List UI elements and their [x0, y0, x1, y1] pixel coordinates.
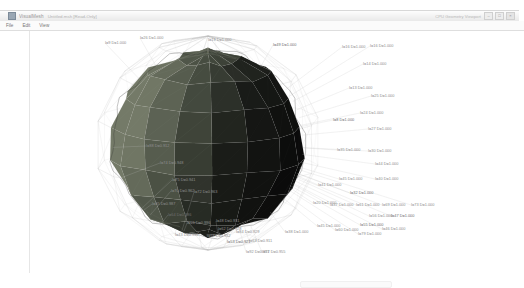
vertex-label: I=53 D=0.921 — [227, 240, 250, 244]
vertex-label: I=63 D=0.911 — [249, 239, 272, 243]
vertex-label: I=41 D=1.000 — [318, 183, 341, 187]
vertex-label: I=44 D=1.000 — [375, 162, 398, 166]
vertex-label: I=70 D=0.962 — [171, 189, 194, 193]
vertex-label: I=9 D=1.000 — [105, 41, 126, 45]
menu-bar: File Edit View — [0, 21, 524, 31]
window-controls: – □ × — [484, 12, 515, 20]
vertex-label: I=24 D=1.000 — [360, 111, 383, 115]
close-button[interactable]: × — [506, 12, 515, 20]
vertex-label: I=88 D=0.912 — [146, 144, 169, 148]
app-icon — [8, 12, 16, 20]
titlebar-status: CPU Geometry Viewport — [435, 14, 481, 19]
vertex-label: I=47 D=1.000 — [391, 214, 414, 218]
minimize-button[interactable]: – — [484, 12, 493, 20]
vertex-label: I=75 D=0.941 — [172, 178, 195, 182]
vertex-label: I=25 D=1.000 — [371, 94, 394, 98]
vertex-label: I=13 D=1.000 — [349, 86, 372, 90]
vertex-label: I=46 D=1.000 — [382, 227, 405, 231]
vertex-label: I=61 D=1.000 — [356, 203, 379, 207]
window-title: VisualMesh — [19, 14, 44, 19]
window-subtitle: Untitled.msh [Read-Only] — [48, 14, 97, 19]
vertex-label: I=73 D=1.000 — [411, 203, 434, 207]
vertex-label: I=55 D=1.000 — [360, 223, 383, 227]
horizontal-scrollbar[interactable] — [300, 281, 392, 288]
vertex-label: I=72 D=0.963 — [194, 190, 217, 194]
vertex-label: I=68 D=0.932 — [207, 234, 230, 238]
vertex-label: I=30 D=1.000 — [368, 149, 391, 153]
menu-item-edit[interactable]: Edit — [21, 23, 31, 29]
maximize-button[interactable]: □ — [495, 12, 504, 20]
vertex-label: I=85 D=0.987 — [152, 202, 175, 206]
solid-layer — [110, 48, 305, 238]
vertex-label: I=60 D=1.000 — [335, 228, 358, 232]
work-area: I=9 D=1.000I=26 D=1.000I=19 D=1.000I=49 … — [0, 31, 519, 273]
vertex-label: I=48 D=0.931 — [216, 219, 239, 223]
vertex-label: I=49 D=1.000 — [273, 43, 296, 47]
vertex-label: I=8 D=1.000 — [333, 118, 354, 122]
vertex-label: I=65 D=0.996 — [187, 221, 210, 225]
menu-item-view[interactable]: View — [38, 23, 50, 29]
vertex-label: I=16 D=1.000 — [370, 44, 393, 48]
vertex-label: I=56 D=1.000 — [369, 214, 392, 218]
vertex-label: I=64 D=0.986 — [168, 213, 191, 217]
vertex-label: I=84 D=0.929 — [236, 230, 259, 234]
vertex-label: I=16 D=1.000 — [342, 45, 365, 49]
vertex-label: I=45 D=1.000 — [339, 177, 362, 181]
left-panel — [0, 31, 30, 273]
vertex-label: I=14 D=1.000 — [363, 62, 386, 66]
viewport-3d[interactable]: I=9 D=1.000I=26 D=1.000I=19 D=1.000I=49 … — [30, 31, 519, 273]
mesh-render — [30, 31, 519, 273]
vertex-label: I=74 D=0.948 — [160, 161, 183, 165]
vertex-label: I=20 D=1.000 — [313, 201, 336, 205]
vertex-label: I=38 D=1.000 — [285, 230, 308, 234]
vertex-label: I=19 D=1.000 — [208, 38, 231, 42]
vertex-label: I=77 D=0.955 — [262, 250, 285, 254]
vertex-label: I=43 D=0.936 — [175, 233, 198, 237]
vertex-label: I=40 D=1.000 — [375, 177, 398, 181]
vertex-label: I=79 D=1.000 — [358, 232, 381, 236]
vertex-label: I=69 D=1.000 — [382, 203, 405, 207]
vertex-label: I=26 D=1.000 — [140, 36, 163, 40]
vertex-label: I=32 D=1.000 — [350, 191, 373, 195]
vertex-label: I=35 D=1.000 — [337, 148, 360, 152]
vertex-label: I=27 D=1.000 — [368, 127, 391, 131]
menu-item-file[interactable]: File — [5, 23, 14, 29]
